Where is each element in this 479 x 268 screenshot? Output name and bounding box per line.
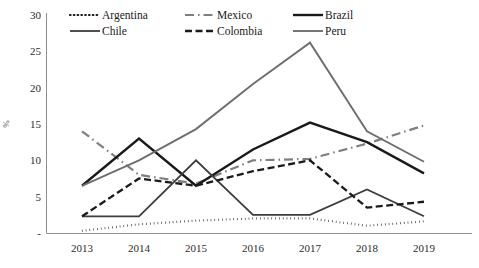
y-axis-tick-labels: -51015202530 — [30, 9, 42, 239]
y-tick-label: 30 — [30, 9, 42, 21]
legend-label-chile: Chile — [102, 25, 127, 37]
series-line-colombia — [82, 160, 424, 216]
y-tick-label: 25 — [30, 45, 42, 57]
series-line-argentina — [82, 218, 424, 230]
x-tick-label: 2015 — [185, 242, 208, 254]
series-line-brazil — [82, 123, 424, 186]
series-paths-group — [82, 43, 424, 231]
x-tick-label: 2013 — [71, 242, 94, 254]
y-tick-label: 5 — [36, 191, 42, 203]
y-tick-label: 10 — [30, 154, 42, 166]
legend-label-brazil: Brazil — [325, 9, 353, 21]
x-tick-label: 2017 — [299, 242, 322, 254]
y-tick-label: - — [37, 227, 41, 239]
chart-container: -51015202530 201320142015201620172018201… — [0, 0, 479, 268]
legend-label-colombia: Colombia — [217, 25, 262, 37]
x-axis-tick-labels: 2013201420152016201720182019 — [71, 242, 436, 254]
series-line-peru — [82, 43, 424, 186]
series-line-chile — [82, 160, 424, 216]
legend-label-argentina: Argentina — [102, 9, 148, 22]
x-tick-label: 2016 — [242, 242, 265, 254]
legend-label-peru: Peru — [325, 25, 346, 37]
line-chart: -51015202530 201320142015201620172018201… — [0, 0, 479, 268]
y-axis-title: % — [1, 120, 11, 128]
legend-label-mexico: Mexico — [217, 9, 252, 21]
chart-legend: ArgentinaMexicoBrazilChileColombiaPeru — [70, 9, 353, 37]
y-tick-label: 15 — [30, 118, 42, 130]
x-tick-label: 2014 — [128, 242, 151, 254]
x-tick-label: 2019 — [413, 242, 436, 254]
x-tick-label: 2018 — [356, 242, 379, 254]
y-tick-label: 20 — [30, 82, 42, 94]
